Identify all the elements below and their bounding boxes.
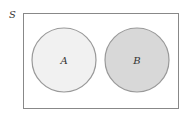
set-b-label: B xyxy=(132,55,140,66)
venn-diagram: S A B xyxy=(0,0,189,118)
universe-label: S xyxy=(9,9,16,20)
set-a-label: A xyxy=(59,55,67,66)
